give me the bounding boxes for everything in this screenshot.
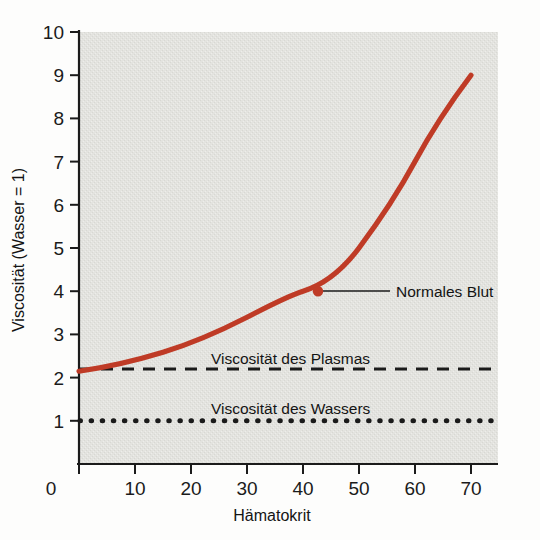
y-axis-ticks bbox=[70, 32, 79, 421]
y-axis-title: Viscosität (Wasser = 1) bbox=[10, 168, 27, 332]
viscosity-hematocrit-chart: 10 9 8 7 6 5 4 3 2 1 0 10 20 30 40 50 60… bbox=[0, 0, 540, 540]
x-tick-label-30: 30 bbox=[236, 478, 257, 499]
y-tick-label-7: 7 bbox=[53, 152, 64, 173]
y-tick-label-2: 2 bbox=[53, 368, 64, 389]
y-tick-label-3: 3 bbox=[53, 324, 64, 345]
y-tick-label-4: 4 bbox=[53, 281, 64, 302]
x-axis-ticks bbox=[79, 464, 471, 474]
annotation-plasma-viscosity: Viscosität des Plasmas bbox=[211, 350, 370, 367]
y-tick-label-6: 6 bbox=[53, 195, 64, 216]
y-tick-label-10: 10 bbox=[43, 22, 64, 43]
annotation-normal-blood: Normales Blut bbox=[396, 283, 494, 300]
y-tick-label-9: 9 bbox=[53, 65, 64, 86]
x-tick-label-70: 70 bbox=[460, 478, 481, 499]
normal-blood-marker bbox=[313, 286, 323, 296]
x-tick-label-40: 40 bbox=[292, 478, 313, 499]
x-tick-label-50: 50 bbox=[348, 478, 369, 499]
y-tick-label-1: 1 bbox=[53, 411, 64, 432]
x-tick-label-0: 0 bbox=[46, 478, 57, 499]
x-tick-label-20: 20 bbox=[180, 478, 201, 499]
x-axis-title: Hämatokrit bbox=[233, 507, 311, 524]
annotation-water-viscosity: Viscosität des Wassers bbox=[211, 400, 371, 417]
y-tick-label-5: 5 bbox=[53, 238, 64, 259]
x-tick-label-60: 60 bbox=[404, 478, 425, 499]
figure-container: 10 9 8 7 6 5 4 3 2 1 0 10 20 30 40 50 60… bbox=[0, 0, 540, 540]
y-tick-label-8: 8 bbox=[53, 108, 64, 129]
x-tick-label-10: 10 bbox=[124, 478, 145, 499]
